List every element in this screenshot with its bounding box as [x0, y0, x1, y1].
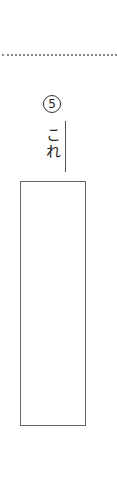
term-sideline — [65, 121, 66, 172]
answer-box[interactable] — [20, 181, 86, 426]
question-number-badge: 5 — [43, 95, 61, 113]
dotted-separator — [2, 54, 117, 56]
question-term: これ — [44, 127, 60, 161]
